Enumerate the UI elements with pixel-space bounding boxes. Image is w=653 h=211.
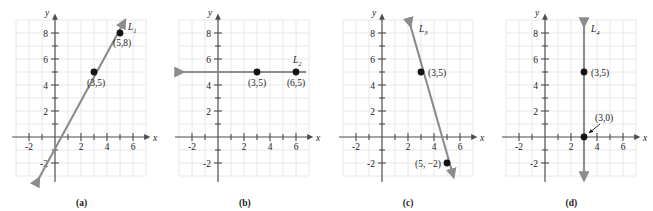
- y-tick-label-8: 8: [207, 29, 212, 39]
- x-tick-label-6: 6: [294, 142, 299, 152]
- x-tick-label-2: 2: [405, 142, 410, 152]
- panel-a-plot: -2 2 4 6 -2 2 4 6 8 x y L1 (5,8) (3,5): [0, 0, 163, 195]
- four-panel-line-graph-figure: -2 2 4 6 -2 2 4 6 8 x y L1 (5,8) (3,5) (…: [0, 0, 653, 211]
- x-tick-label-2: 2: [79, 142, 84, 152]
- line-L3: [410, 24, 453, 175]
- y-axis-label: y: [370, 8, 376, 18]
- x-axis-label: x: [152, 133, 158, 143]
- x-tick-label-4: 4: [268, 142, 273, 152]
- x-axis: [339, 133, 475, 141]
- x-tick-label-2: 2: [242, 142, 247, 152]
- data-point-3-5: [417, 69, 424, 76]
- grid-lines: [343, 20, 473, 176]
- y-tick-label-6: 6: [43, 55, 48, 65]
- x-tick-label-neg2: -2: [515, 142, 523, 152]
- x-tick-label-6: 6: [457, 142, 462, 152]
- grid-lines: [179, 20, 309, 176]
- x-axis: [502, 133, 638, 141]
- x-tick-label-2: 2: [568, 142, 573, 152]
- panel-c: -2 2 4 6 -2 2 4 6 8 x y L3 (3,5) (5, −2)…: [327, 0, 490, 211]
- point-label-5-neg2: (5, −2): [415, 159, 441, 170]
- data-point-5-neg2: [443, 160, 450, 167]
- y-tick-label-2: 2: [207, 107, 212, 117]
- x-axis-label: x: [478, 133, 484, 143]
- x-tick-label-4: 4: [431, 142, 436, 152]
- x-tick-label-6: 6: [131, 142, 136, 152]
- y-axis: [378, 16, 386, 182]
- panel-b-plot: -2 2 4 6 -2 2 4 6 8 x y L2 (3,5) (6,5): [163, 0, 326, 195]
- y-tick-label-2: 2: [43, 107, 48, 117]
- panel-a: -2 2 4 6 -2 2 4 6 8 x y L1 (5,8) (3,5) (…: [0, 0, 163, 211]
- line-label-L3: L3: [418, 24, 428, 36]
- x-axis-label: x: [642, 133, 648, 143]
- line-label-L2: L2: [292, 55, 302, 67]
- y-tick-label-neg2: -2: [530, 159, 538, 169]
- y-tick-label-4: 4: [533, 81, 538, 91]
- x-tick-label-4: 4: [594, 142, 599, 152]
- panel-c-plot: -2 2 4 6 -2 2 4 6 8 x y L3 (3,5) (5, −2): [327, 0, 490, 195]
- x-tick-label-neg2: -2: [352, 142, 360, 152]
- y-tick-label-8: 8: [43, 29, 48, 39]
- y-tick-label-4: 4: [207, 81, 212, 91]
- point-label-3-0: (3,0): [595, 113, 613, 124]
- panel-caption-d: (d): [490, 198, 653, 208]
- y-tick-label-neg2: -2: [203, 159, 211, 169]
- point-label-3-5: (3,5): [428, 68, 446, 79]
- x-tick-label-4: 4: [105, 142, 110, 152]
- y-tick-label-4: 4: [43, 81, 48, 91]
- data-point-3-5: [580, 69, 587, 76]
- panel-d: -2 2 4 6 -2 2 4 6 8 x y L4 (3,5) (3,0) (…: [490, 0, 653, 211]
- data-point-6-5: [293, 69, 300, 76]
- panel-d-plot: -2 2 4 6 -2 2 4 6 8 x y L4 (3,5) (3,0): [490, 0, 653, 195]
- x-tick-label-6: 6: [620, 142, 625, 152]
- y-axis: [51, 16, 59, 182]
- leader-arrow-3-0: [589, 124, 600, 133]
- x-axis-label: x: [315, 133, 321, 143]
- point-label-3-5: (3,5): [591, 68, 609, 79]
- data-point-3-5: [254, 69, 261, 76]
- point-label-3-5: (3,5): [87, 78, 105, 89]
- data-point-3-0: [580, 134, 587, 141]
- y-tick-label-2: 2: [533, 107, 538, 117]
- data-point-3-5: [91, 69, 98, 76]
- y-tick-label-6: 6: [207, 55, 212, 65]
- point-label-5-8: (5,8): [113, 38, 131, 49]
- y-tick-label-2: 2: [370, 107, 375, 117]
- y-tick-label-8: 8: [370, 29, 375, 39]
- y-axis-label: y: [207, 8, 213, 18]
- panel-caption-c: (c): [327, 198, 490, 208]
- y-tick-label-6: 6: [533, 55, 538, 65]
- x-axis: [175, 133, 311, 141]
- y-tick-label-6: 6: [370, 55, 375, 65]
- panel-caption-a: (a): [0, 198, 163, 208]
- y-tick-label-neg2: -2: [367, 159, 375, 169]
- panel-caption-b: (b): [163, 198, 326, 208]
- y-axis: [541, 16, 549, 182]
- y-axis: [214, 16, 222, 182]
- y-tick-label-8: 8: [533, 29, 538, 39]
- point-label-6-5: (6,5): [287, 78, 305, 89]
- x-axis: [12, 133, 148, 141]
- x-tick-label-neg2: -2: [188, 142, 196, 152]
- point-label-3-5: (3,5): [248, 78, 266, 89]
- data-point-5-8: [117, 30, 124, 37]
- grid-lines: [506, 20, 636, 176]
- y-tick-label-4: 4: [370, 81, 375, 91]
- line-label-L4: L4: [590, 24, 600, 36]
- panel-b: -2 2 4 6 -2 2 4 6 8 x y L2 (3,5) (6,5) (…: [163, 0, 326, 211]
- y-axis-label: y: [44, 8, 50, 18]
- y-axis-label: y: [534, 8, 540, 18]
- line-label-L1: L1: [127, 22, 137, 34]
- x-tick-label-neg2: -2: [25, 142, 33, 152]
